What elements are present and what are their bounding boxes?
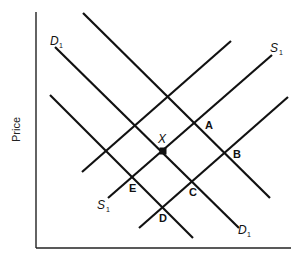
label-d1-bottom: D 1 [238, 223, 251, 238]
label-d1-top: D 1 [50, 34, 63, 49]
point-c-label: C [189, 186, 197, 198]
label-s1-top: S 1 [270, 41, 283, 56]
svg-text:1: 1 [247, 231, 251, 238]
svg-text:S: S [97, 198, 105, 212]
demand-curve-d1 [55, 47, 239, 228]
point-d-label: D [159, 212, 167, 224]
demand-curve-upper [83, 13, 270, 198]
supply-demand-diagram: Price D 1 S 1 S 1 D 1 X A B C D E [0, 0, 300, 255]
supply-curve-upper [82, 41, 231, 172]
svg-text:1: 1 [106, 206, 110, 213]
y-axis-label: Price [10, 117, 22, 142]
svg-text:D: D [238, 223, 247, 237]
label-s1-bottom: S 1 [97, 198, 110, 213]
point-a-label: A [205, 119, 213, 131]
supply-curve-lower [139, 97, 288, 228]
point-x-label: X [157, 132, 167, 146]
demand-curve-lower [50, 95, 193, 238]
svg-text:D: D [50, 34, 59, 48]
svg-text:S: S [270, 41, 278, 55]
svg-text:1: 1 [279, 49, 283, 56]
equilibrium-marker [160, 148, 167, 155]
point-b-label: B [233, 148, 241, 160]
svg-text:1: 1 [59, 42, 63, 49]
point-e-label: E [129, 182, 136, 194]
